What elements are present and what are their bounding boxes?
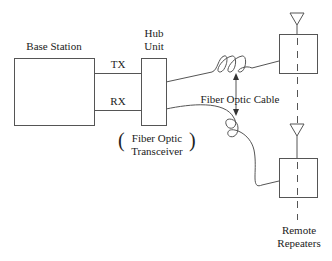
hub-unit-box <box>142 59 167 126</box>
lower-fiber-cable <box>166 105 279 186</box>
transceiver-line2: Transceiver <box>131 145 183 157</box>
arrow-down-head <box>233 109 239 116</box>
remote-repeater-2-box <box>280 159 318 198</box>
transceiver-line1: Fiber Optic <box>132 132 183 144</box>
remote-label-line1: Remote <box>282 224 316 236</box>
arrow-up-head <box>233 73 239 80</box>
fiber-cable-label: Fiber Optic Cable <box>201 93 280 105</box>
antenna-2-icon <box>290 124 304 136</box>
remote-repeater-1-box <box>280 35 318 74</box>
base-station-label: Base Station <box>26 40 82 52</box>
remote-label-line2: Repeaters <box>277 237 320 249</box>
open-paren: ( <box>118 129 125 152</box>
upper-fiber-cable <box>166 56 279 82</box>
base-station-box <box>15 59 95 126</box>
antenna-1-icon <box>290 13 304 25</box>
tx-label: TX <box>111 58 126 70</box>
fiber-repeater-diagram: Base Station TX RX Hub Unit ( Fiber Opti… <box>0 0 332 261</box>
close-paren: ) <box>189 129 196 152</box>
hub-label-line2: Unit <box>144 40 164 52</box>
hub-label-line1: Hub <box>145 27 164 39</box>
rx-label: RX <box>110 95 125 107</box>
